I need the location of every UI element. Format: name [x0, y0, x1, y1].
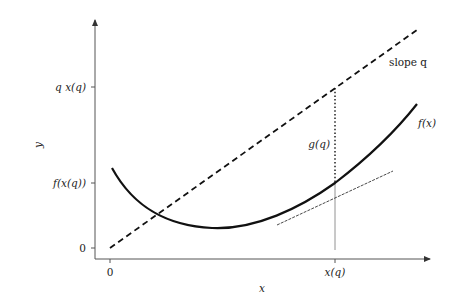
y-tick-label-fxq: f(x(q))	[52, 177, 86, 189]
x-axis-label: x	[259, 282, 265, 294]
curve-label: f(x)	[417, 117, 436, 129]
slope-line	[110, 30, 417, 248]
y-tick-label-0: 0	[79, 242, 86, 254]
diagram-canvas: 0 f(x(q)) q x(q) 0 x(q) x y slope q f(x)…	[0, 0, 455, 308]
y-tick-label-qxq: q x(q)	[55, 81, 86, 93]
y-axis-label: y	[32, 141, 44, 149]
x-tick-label-xq: x(q)	[325, 266, 346, 278]
slope-label: slope q	[389, 56, 427, 68]
gap-label: g(q)	[308, 138, 330, 150]
x-tick-label-0: 0	[107, 266, 114, 278]
curve-fx	[112, 104, 417, 228]
